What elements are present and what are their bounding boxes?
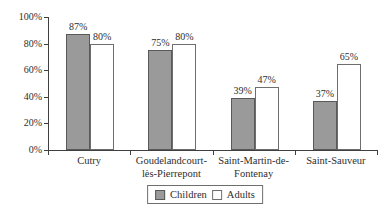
x-axis-category-label: Saint-Sauveur (290, 155, 382, 168)
bar-value-label-adults-1: 80% (169, 31, 199, 42)
y-axis-tick-label: 60% (2, 64, 42, 76)
y-axis-tick-label: 100% (2, 11, 42, 23)
bar-adults-3 (337, 64, 361, 150)
x-axis-category-label-line: Saint-Sauveur (290, 155, 382, 168)
y-axis-tick-label: 40% (2, 91, 42, 103)
y-axis-tick-label: 0% (2, 144, 42, 156)
x-axis-category-label-line: lès-Pierrepont (125, 168, 217, 181)
bar-children-1 (148, 50, 172, 150)
y-axis-tick-label: 80% (2, 38, 42, 50)
bar-children-3 (313, 101, 337, 150)
y-axis-tick-label: 20% (2, 117, 42, 129)
x-axis-category-label: Cutry (43, 155, 135, 168)
bar-children-0 (66, 34, 90, 150)
legend-swatch-children (155, 190, 165, 200)
bar-value-label-adults-2: 47% (252, 74, 282, 85)
x-axis-category-label-line: Fontenay (208, 168, 300, 181)
bar-value-label-children-2: 39% (228, 85, 258, 96)
x-axis-category-label-line: Goudelandcourt- (125, 155, 217, 168)
bar-adults-0 (90, 44, 114, 150)
bar-value-label-adults-3: 65% (334, 51, 364, 62)
legend-swatch-adults (212, 190, 222, 200)
legend-label-children: Children (170, 188, 207, 201)
bar-value-label-adults-0: 80% (87, 31, 117, 42)
plot-area: 87%75%39%37%80%80%47%65% (48, 17, 378, 151)
x-axis-category-label-line: Saint-Martin-de- (208, 155, 300, 168)
bar-children-2 (231, 98, 255, 150)
bar-chart-figure: 0%20%40%60%80%100% 87%75%39%37%80%80%47%… (0, 0, 384, 214)
x-axis-category-label: Goudelandcourt-lès-Pierrepont (125, 155, 217, 180)
bar-adults-1 (172, 44, 196, 150)
bar-adults-2 (255, 87, 279, 150)
x-axis-category-label-line: Cutry (43, 155, 135, 168)
legend: Children Adults (147, 185, 263, 204)
legend-label-adults: Adults (227, 188, 255, 201)
bar-value-label-children-3: 37% (310, 88, 340, 99)
x-axis-category-label: Saint-Martin-de-Fontenay (208, 155, 300, 180)
